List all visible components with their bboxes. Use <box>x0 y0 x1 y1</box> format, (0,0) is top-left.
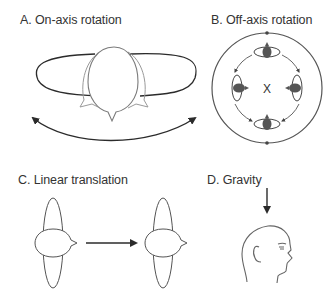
head-position-top <box>254 42 280 58</box>
panel-d-illustration <box>242 188 292 283</box>
head-top-view <box>88 47 138 121</box>
inner-arc-4 <box>235 104 252 121</box>
head-profile-icon <box>242 226 292 283</box>
inner-arc-3 <box>282 104 299 121</box>
panel-c-illustration <box>35 198 187 288</box>
rotation-axis-marker: X <box>263 82 271 96</box>
head-front-view-start <box>35 198 77 288</box>
panel-a-illustration <box>33 47 196 141</box>
panel-b-illustration: X <box>212 31 322 145</box>
ear-icon <box>254 246 261 262</box>
inner-arc-1 <box>235 55 252 72</box>
eye-icon <box>278 243 286 249</box>
head-front-view-end <box>145 198 187 288</box>
diagram-canvas: X <box>0 0 323 307</box>
head-position-right <box>285 75 302 101</box>
head-position-bottom <box>254 114 280 130</box>
inner-arc-2 <box>282 55 299 72</box>
top-tick-icon <box>265 31 269 35</box>
bottom-tick-icon <box>265 141 269 145</box>
rotation-arrow <box>33 118 195 141</box>
head-position-left <box>232 75 249 101</box>
